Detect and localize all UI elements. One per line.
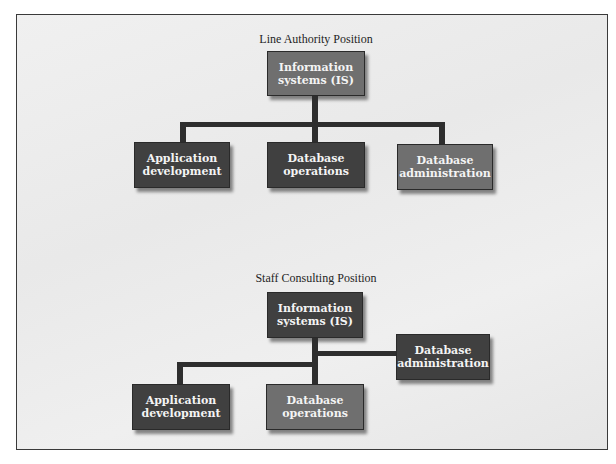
connector [312,96,318,142]
connector [180,122,186,142]
line-is-box: Informationsystems (IS) [267,51,365,96]
connector [177,362,317,367]
line-db-ops-box: Databaseoperations [267,142,365,188]
connector [180,122,444,127]
line-app-dev-box: Applicationdevelopment [134,142,230,188]
connector [177,362,183,384]
line-authority-title: Line Authority Position [216,32,416,47]
staff-db-ops-box: Databaseoperations [266,384,364,430]
line-db-admin-box: Databaseadministration [397,144,493,190]
staff-db-admin-box: Databaseadministration [396,334,490,380]
staff-app-dev-box: Applicationdevelopment [132,384,230,430]
staff-consulting-title: Staff Consulting Position [216,271,416,286]
connector [312,338,318,384]
connector [439,122,445,144]
staff-is-box: Informationsystems (IS) [267,292,363,338]
connector [316,351,396,356]
